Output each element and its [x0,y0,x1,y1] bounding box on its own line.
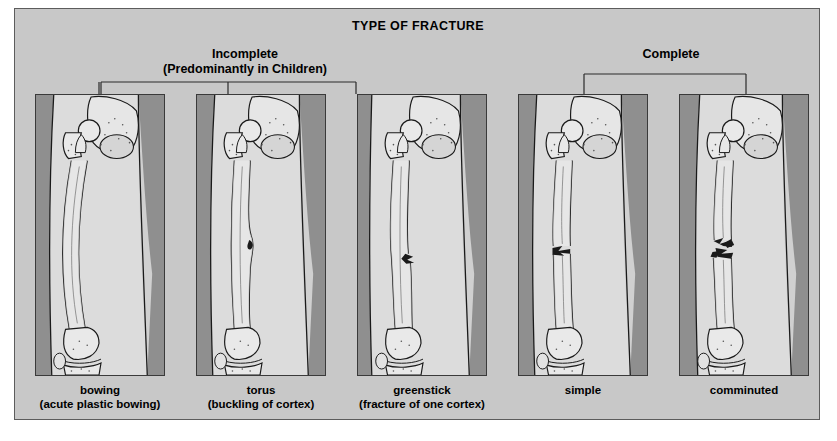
caption-bowing: bowing (acute plastic bowing) [25,383,175,411]
caption-greenstick-sub: (fracture of one cortex) [347,397,497,411]
caption-comminuted-main: comminuted [710,384,778,396]
caption-torus-sub: (buckling of cortex) [186,397,336,411]
caption-bowing-main: bowing [80,384,120,396]
figure-frame: TYPE OF FRACTURE Incomplete (Predominant… [14,8,820,420]
panel-bowing [35,94,165,376]
caption-torus-main: torus [247,384,276,396]
panel-simple [518,94,648,376]
fracture-type-figure: TYPE OF FRACTURE Incomplete (Predominant… [0,0,837,441]
panel-row: bowing (acute plastic bowing) [15,9,821,421]
caption-simple-main: simple [565,384,601,396]
panel-torus [196,94,326,376]
caption-comminuted: comminuted [669,383,819,397]
caption-bowing-sub: (acute plastic bowing) [25,397,175,411]
caption-greenstick-main: greenstick [393,384,451,396]
caption-greenstick: greenstick (fracture of one cortex) [347,383,497,411]
panel-greenstick [357,94,487,376]
caption-simple: simple [508,383,658,397]
panel-comminuted [679,94,809,376]
caption-torus: torus (buckling of cortex) [186,383,336,411]
